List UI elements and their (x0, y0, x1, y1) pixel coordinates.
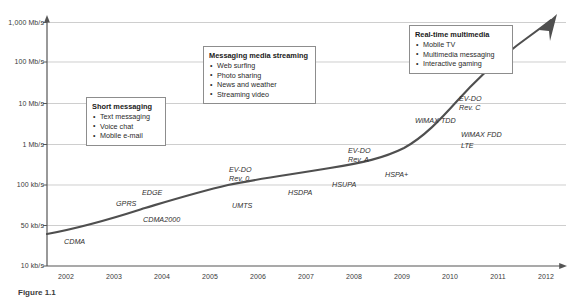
tech-label-line: EV-DO (229, 165, 252, 174)
tech-label-evdo-revc: EV-DO Rev. C (459, 94, 482, 112)
x-tick-2008: 2008 (337, 273, 371, 280)
figure-container: 1,000 Mb/s 100 Mb/s 10 Mb/s 1 Mb/s 100 k… (0, 0, 575, 297)
callout-items: Text messaging Voice chat Mobile e-mail (92, 112, 159, 141)
callout-title: Real-time multimedia (415, 30, 506, 39)
callout-real-time-multimedia: Real-time multimedia Mobile TV Multimedi… (409, 25, 513, 74)
tech-label-gprs: GPRS (116, 199, 136, 208)
x-tick-2009: 2009 (385, 273, 419, 280)
x-tick-2002: 2002 (49, 273, 83, 280)
callout-messaging-media-streaming: Messaging media streaming Web surfing Ph… (203, 46, 316, 104)
tech-label-lte: LTE (461, 141, 474, 150)
y-axis (43, 15, 50, 266)
tech-label-line: EV-DO (348, 146, 371, 155)
y-axis-arrowhead (44, 15, 50, 22)
callout-short-messaging: Short messaging Text messaging Voice cha… (86, 97, 166, 146)
tech-label-line: HSUPA (332, 180, 356, 189)
callout-item: Voice chat (92, 122, 159, 132)
tech-label-line: LTE (461, 141, 474, 150)
y-tick-1000mbs: 1,000 Mb/s (0, 19, 44, 26)
y-tick-50kbs: 50 kb/s (0, 222, 44, 229)
tech-label-hsdpa: HSDPA (288, 188, 312, 197)
x-axis (47, 263, 567, 269)
callout-item: Multimedia messaging (415, 50, 506, 60)
y-tick-10mbs: 10 Mb/s (0, 100, 44, 107)
callout-title: Messaging media streaming (209, 51, 309, 60)
tech-label-line: Rev. 0 (229, 174, 252, 183)
tech-label-line: UMTS (232, 201, 252, 210)
tech-label-line: EDGE (142, 188, 162, 197)
callout-item: Mobile e-mail (92, 131, 159, 141)
x-tick-2011: 2011 (481, 273, 515, 280)
y-tick-10kbs: 10 kb/s (0, 262, 44, 269)
callout-item: Mobile TV (415, 40, 506, 50)
x-axis-arrowhead (559, 263, 567, 269)
tech-label-wimax-tdd: WiMAX TDD (415, 116, 456, 125)
callout-item: Photo sharing (209, 71, 309, 81)
tech-label-line: WiMAX TDD (415, 116, 456, 125)
y-tick-1mbs: 1 Mb/s (0, 141, 44, 148)
tech-label-line: CDMA (64, 237, 85, 246)
tech-label-line: WiMAX FDD (461, 130, 502, 139)
callout-item: Web surfing (209, 61, 309, 71)
tech-label-line: HSDPA (288, 188, 312, 197)
tech-label-cdma: CDMA (64, 237, 85, 246)
x-tick-2007: 2007 (289, 273, 323, 280)
tech-label-cdma2000: CDMA2000 (143, 215, 180, 224)
tech-label-evdo-rev0: EV-DO Rev. 0 (229, 165, 252, 183)
tech-label-line: EV-DO (459, 94, 482, 103)
x-tick-2012: 2012 (529, 273, 563, 280)
tech-label-umts: UMTS (232, 201, 252, 210)
callout-items: Mobile TV Multimedia messaging Interacti… (415, 40, 506, 69)
tech-label-hsupa: HSUPA (332, 180, 356, 189)
x-tick-2004: 2004 (145, 273, 179, 280)
tech-label-line: GPRS (116, 199, 136, 208)
tech-label-evdo-reva: EV-DO Rev. A (348, 146, 371, 164)
callout-item: Streaming video (209, 90, 309, 100)
callout-item: Interactive gaming (415, 59, 506, 69)
tech-label-line: Rev. C (459, 103, 482, 112)
figure-caption: Figure 1.1 (18, 288, 56, 297)
y-tick-100kbs: 100 kb/s (0, 181, 44, 188)
tech-label-line: Rev. A (348, 155, 371, 164)
x-tick-2005: 2005 (193, 273, 227, 280)
x-tick-2003: 2003 (97, 273, 131, 280)
tech-label-line: HSPA+ (385, 170, 408, 179)
callout-item: News and weather (209, 80, 309, 90)
x-tick-2010: 2010 (433, 273, 467, 280)
callout-title: Short messaging (92, 102, 159, 111)
tech-label-edge: EDGE (142, 188, 162, 197)
tech-label-line: CDMA2000 (143, 215, 180, 224)
callout-item: Text messaging (92, 112, 159, 122)
y-tick-100mbs: 100 Mb/s (0, 58, 44, 65)
tech-label-hspa-plus: HSPA+ (385, 170, 408, 179)
x-tick-2006: 2006 (241, 273, 275, 280)
tech-label-wimax-fdd: WiMAX FDD (461, 130, 502, 139)
callout-items: Web surfing Photo sharing News and weath… (209, 61, 309, 99)
